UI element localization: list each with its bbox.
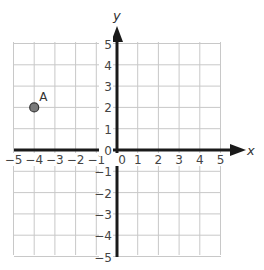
x-tick-label: −4 (25, 153, 43, 167)
point-label: A (39, 90, 48, 104)
coordinate-plane: −5−4−3−2−1012345 543210−1−2−3−4−5 x y A (0, 0, 264, 270)
x-tick-label: 0 (118, 153, 126, 167)
y-tick-label: 4 (104, 59, 112, 73)
y-tick-label: −2 (94, 187, 112, 201)
y-tick-label: −1 (94, 165, 112, 179)
x-tick-label: 4 (196, 153, 204, 167)
point-a: A (30, 90, 49, 112)
x-tick-label: −2 (67, 153, 85, 167)
x-tick-label: 3 (175, 153, 183, 167)
y-tick-label: 3 (104, 80, 112, 94)
x-tick-label: −3 (46, 153, 64, 167)
x-tick-labels: −5−4−3−2−1012345 (5, 153, 228, 167)
x-tick-label: −5 (5, 153, 23, 167)
points: A (30, 90, 49, 112)
y-tick-label: −4 (94, 229, 112, 243)
y-tick-label: 1 (104, 123, 112, 137)
x-tick-label: 2 (155, 153, 163, 167)
y-tick-label: 2 (104, 101, 112, 115)
y-axis-label: y (112, 8, 121, 23)
y-tick-label: 0 (104, 144, 112, 158)
x-tick-label: 1 (134, 153, 142, 167)
x-axis-label: x (246, 143, 255, 158)
y-tick-label: −3 (94, 208, 112, 222)
x-tick-label: 5 (217, 153, 225, 167)
axes (14, 26, 246, 257)
y-tick-label: 5 (104, 38, 112, 52)
y-tick-label: −5 (94, 251, 112, 265)
x-axis-arrow-icon (230, 144, 246, 156)
point-marker-icon (30, 103, 39, 112)
